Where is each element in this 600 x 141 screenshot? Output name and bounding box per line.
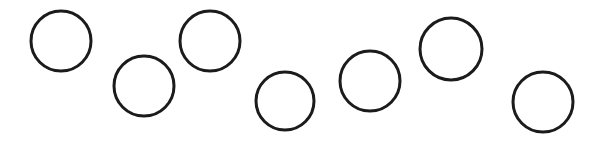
image-canvas (0, 0, 600, 141)
circle-2-outline-icon (114, 56, 174, 116)
circle-1-outline-icon (31, 11, 91, 71)
circle-5-outline-icon (340, 51, 400, 111)
circle-4-outline-icon (256, 72, 314, 130)
circle-6-outline-icon (420, 18, 482, 80)
circle-7-outline-icon (513, 72, 573, 132)
circle-3-outline-icon (180, 11, 240, 71)
circles-group (0, 0, 600, 141)
